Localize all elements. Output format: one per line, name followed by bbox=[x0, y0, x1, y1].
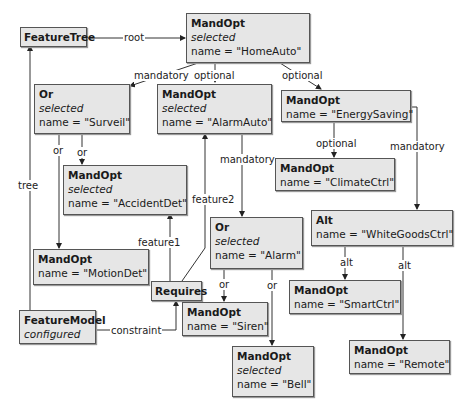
node-name: name = "Alarm" bbox=[215, 248, 298, 262]
node-type: MandOpt bbox=[187, 305, 263, 319]
edge-label-energy-climate: optional bbox=[315, 138, 358, 149]
node-name: name = "Surveil" bbox=[39, 115, 125, 129]
node-siren[interactable]: MandOpt name = "Siren" bbox=[182, 302, 268, 336]
node-type: FeatureModel bbox=[24, 313, 91, 327]
node-name: name = "MotionDet" bbox=[38, 266, 144, 280]
node-type: MandOpt bbox=[38, 252, 144, 266]
edge-label-constraint: constraint bbox=[110, 325, 162, 336]
edge-label-root: root bbox=[123, 32, 145, 43]
node-home-auto[interactable]: MandOpt selected name = "HomeAuto" bbox=[186, 13, 310, 63]
edge-label-surveil-motion: or bbox=[52, 145, 64, 156]
edge-label-alarmauto-alarm: mandatory bbox=[219, 154, 276, 165]
node-climate-ctrl[interactable]: MandOpt name = "ClimateCtrl" bbox=[275, 158, 395, 191]
node-state: selected bbox=[162, 101, 267, 115]
edge-label-tree: tree bbox=[17, 180, 39, 191]
node-alarm-auto[interactable]: MandOpt selected name = "AlarmAuto" bbox=[157, 84, 272, 134]
node-smart-ctrl[interactable]: MandOpt name = "SmartCtrl" bbox=[289, 280, 401, 314]
node-name: name = "Bell" bbox=[237, 377, 309, 391]
node-motion-det[interactable]: MandOpt name = "MotionDet" bbox=[33, 249, 149, 285]
node-name: name = "AccidentDet" bbox=[68, 196, 182, 210]
node-state: selected bbox=[39, 101, 125, 115]
node-requires[interactable]: Requires bbox=[151, 281, 202, 301]
node-type: MandOpt bbox=[162, 87, 267, 101]
node-state: configured bbox=[24, 327, 91, 341]
edge-label-alarm-siren: or bbox=[218, 279, 230, 290]
node-name: name = "EnergySaving" bbox=[286, 107, 406, 121]
node-type: MandOpt bbox=[354, 343, 445, 357]
node-type: Or bbox=[215, 220, 298, 234]
node-energy-saving[interactable]: MandOpt name = "EnergySaving" bbox=[281, 90, 411, 122]
node-state: selected bbox=[68, 182, 182, 196]
edge-label-white-smart: alt bbox=[339, 257, 354, 268]
node-remote[interactable]: MandOpt name = "Remote" bbox=[349, 340, 450, 374]
node-state: selected bbox=[215, 234, 298, 248]
edge-label-home-energy: optional bbox=[281, 70, 324, 81]
node-type: Alt bbox=[316, 213, 448, 227]
node-name: name = "ClimateCtrl" bbox=[280, 175, 390, 189]
node-bell[interactable]: MandOpt selected name = "Bell" bbox=[232, 346, 314, 397]
node-type: Or bbox=[39, 87, 125, 101]
node-feature-model[interactable]: FeatureModel configured bbox=[19, 310, 96, 344]
node-state: selected bbox=[191, 30, 305, 44]
node-type: Requires bbox=[155, 284, 198, 298]
edge-label-home-alarmauto: optional bbox=[193, 70, 236, 81]
edge-label-energy-white: mandatory bbox=[389, 141, 446, 152]
node-name: name = "SmartCtrl" bbox=[294, 297, 396, 311]
node-state: selected bbox=[237, 363, 309, 377]
node-type: FeatureTree bbox=[24, 30, 83, 44]
node-white-goods-ctrl[interactable]: Alt name = "WhiteGoodsCtrl" bbox=[311, 210, 453, 246]
edge-label-feature2: feature2 bbox=[191, 194, 235, 205]
node-type: MandOpt bbox=[286, 93, 406, 107]
node-feature-tree[interactable]: FeatureTree bbox=[20, 27, 87, 47]
node-name: name = "Remote" bbox=[354, 357, 445, 371]
node-name: name = "WhiteGoodsCtrl" bbox=[316, 227, 448, 241]
edge-label-feature1: feature1 bbox=[137, 237, 181, 248]
node-surveil[interactable]: Or selected name = "Surveil" bbox=[34, 84, 130, 134]
node-type: MandOpt bbox=[191, 16, 305, 30]
node-name: name = "HomeAuto" bbox=[191, 44, 305, 58]
edge-label-surveil-accident: or bbox=[76, 147, 88, 158]
node-accident-det[interactable]: MandOpt selected name = "AccidentDet" bbox=[63, 165, 187, 215]
node-name: name = "Siren" bbox=[187, 319, 263, 333]
node-type: MandOpt bbox=[68, 168, 182, 182]
node-name: name = "AlarmAuto" bbox=[162, 115, 267, 129]
edge-label-home-surveil: mandatory bbox=[133, 70, 190, 81]
node-type: MandOpt bbox=[280, 161, 390, 175]
edge-label-white-remote: alt bbox=[397, 260, 412, 271]
edge-label-alarm-bell: or bbox=[266, 280, 278, 291]
node-type: MandOpt bbox=[294, 283, 396, 297]
node-type: MandOpt bbox=[237, 349, 309, 363]
node-alarm[interactable]: Or selected name = "Alarm" bbox=[210, 217, 303, 269]
